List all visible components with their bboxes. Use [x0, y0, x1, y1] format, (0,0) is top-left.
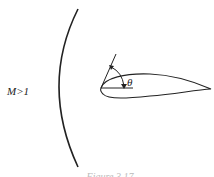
shock-wave-curve: [59, 9, 78, 167]
mach-label: M>1: [6, 85, 29, 97]
tangent-line: [101, 54, 116, 88]
airfoil-shape: [101, 74, 211, 98]
figure-caption: Figure 3.17: [70, 171, 150, 177]
angle-label: θ: [127, 76, 133, 88]
caption-clip: Figure 3.17: [0, 171, 214, 177]
diagram-canvas: θ M>1: [0, 0, 214, 177]
